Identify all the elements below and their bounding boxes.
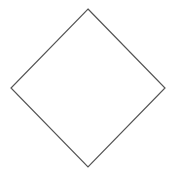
diagram-canvas: [0, 0, 178, 180]
diagram-svg: [0, 0, 178, 180]
decision-diamond-shape: [11, 9, 165, 167]
